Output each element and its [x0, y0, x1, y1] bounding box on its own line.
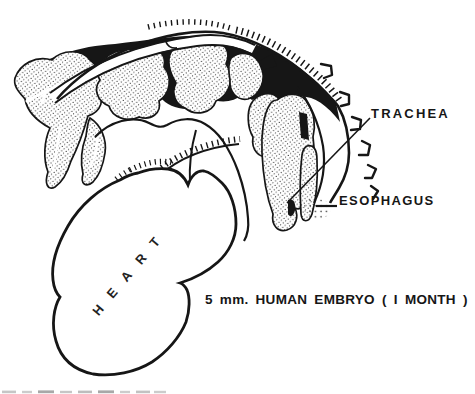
heart-outline: [53, 169, 236, 375]
arch-mass-3: [169, 40, 231, 112]
trachea-label: TRACHEA: [371, 106, 450, 121]
cropped-print-remnant: [2, 390, 166, 393]
figure-caption: 5 mm. HUMAN EMBRYO ( I MONTH ): [205, 292, 468, 307]
esophagus-dotted-tip: [304, 199, 331, 219]
embryo-figure: TRACHEA ESOPHAGUS HEART 5 mm. HUMAN EMBR…: [0, 0, 475, 394]
arch-mass-4: [229, 53, 264, 99]
esophagus-label: ESOPHAGUS: [339, 193, 435, 208]
